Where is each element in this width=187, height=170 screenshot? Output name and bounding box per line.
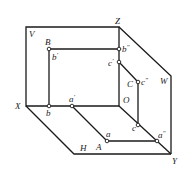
- label-b-prime: b': [52, 51, 59, 62]
- label-B: B: [45, 37, 51, 47]
- label-c: c: [132, 123, 136, 133]
- label-b: b: [46, 108, 51, 118]
- label-h: H: [79, 143, 87, 153]
- label-a-prime: a': [69, 93, 76, 104]
- label-a: a: [106, 129, 111, 139]
- label-z: Z: [115, 16, 121, 26]
- label-b-double-prime: b": [122, 43, 130, 54]
- a-projection-line-diagonal: [72, 106, 107, 141]
- label-c-prime: c': [108, 57, 114, 68]
- label-v: V: [29, 29, 36, 39]
- label-C: C: [127, 79, 134, 89]
- point-b-double-prime: [117, 47, 121, 51]
- point-c-prime: [117, 60, 121, 64]
- point-c: [136, 123, 140, 127]
- label-c-double-prime: c": [141, 76, 148, 87]
- projection-diagram: Z V W X O H Y B b' b" b c' C c" c a' a A…: [0, 0, 187, 170]
- point-a-prime: [70, 104, 74, 108]
- label-o: O: [123, 95, 130, 105]
- label-x: X: [14, 101, 21, 111]
- label-w: W: [160, 76, 169, 86]
- point-c-double-prime: [136, 80, 140, 84]
- point-a: [105, 139, 109, 143]
- label-A: A: [95, 142, 102, 152]
- label-y: Y: [172, 156, 178, 166]
- point-b-prime: [47, 47, 51, 51]
- label-a-double-prime: a": [158, 129, 166, 140]
